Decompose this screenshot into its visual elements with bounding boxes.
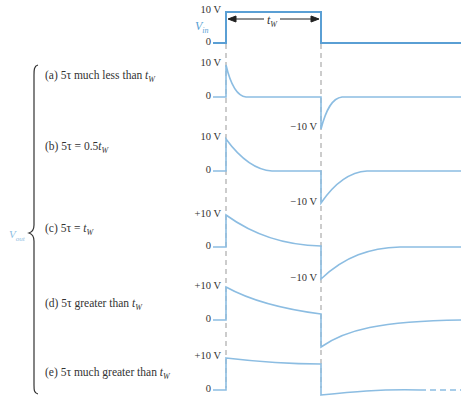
case-c-zero-label: 0 <box>171 240 211 251</box>
case-d-label: (d) 5τ greater than tW <box>45 297 142 312</box>
output-waveform-e <box>213 358 461 395</box>
case-d-zero-label: 0 <box>171 313 211 324</box>
vout-label: Vout <box>9 228 25 243</box>
output-waveform-a <box>213 65 461 129</box>
case-b-pos-label: 10 V <box>181 131 221 142</box>
case-a-label: (a) 5τ much less than tW <box>45 69 155 84</box>
case-c-neg-label: −10 V <box>277 272 317 283</box>
case-e-zero-label: 0 <box>171 383 211 394</box>
waveform-diagram <box>0 0 472 405</box>
case-b-zero-label: 0 <box>171 164 211 175</box>
case-e-label: (e) 5τ much greater than tW <box>45 366 170 381</box>
pulse-width-label: tW <box>264 13 280 29</box>
case-a-pos-label: 10 V <box>181 57 221 68</box>
vin-zero-label: 0 <box>171 36 211 47</box>
vin-high-label: 10 V <box>181 4 221 15</box>
output-waveform-b <box>213 139 461 203</box>
case-a-neg-label: −10 V <box>277 121 317 132</box>
case-a-zero-label: 0 <box>171 90 211 101</box>
input-pulse-waveform <box>213 12 461 43</box>
case-c-label: (c) 5τ = tW <box>45 222 93 237</box>
output-waveform-c <box>213 215 461 279</box>
vin-label: Vin <box>195 19 209 35</box>
case-d-pos-label: +10 V <box>181 280 221 291</box>
case-b-neg-label: −10 V <box>277 196 317 207</box>
case-b-label: (b) 5τ = 0.5tW <box>45 140 108 155</box>
case-c-pos-label: +10 V <box>181 208 221 219</box>
case-e-pos-label: +10 V <box>181 350 221 361</box>
vout-brace <box>29 65 38 394</box>
output-waveform-d <box>213 287 461 347</box>
